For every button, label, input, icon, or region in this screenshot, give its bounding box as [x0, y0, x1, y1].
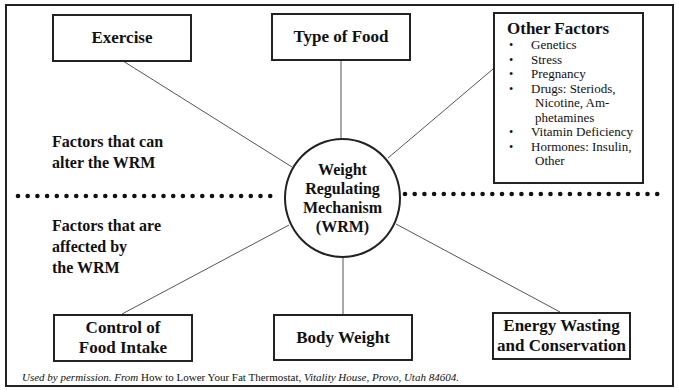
lower-section-label: Factors that are affected by the WRM: [52, 215, 161, 278]
exercise-label: Exercise: [91, 28, 152, 48]
wrm-hub-circle: Weight Regulating Mechanism (WRM): [284, 138, 401, 258]
other-factors-title: Other Factors: [507, 20, 642, 38]
bullet-icon: •: [509, 67, 513, 82]
connector-energy-wasting: [396, 224, 560, 312]
other-factors-list: •Genetics •Stress •Pregnancy •Drugs: Ste…: [507, 38, 642, 169]
bullet-icon: •: [509, 125, 513, 140]
other-factors-box: Other Factors •Genetics •Stress •Pregnan…: [493, 12, 644, 184]
other-factor-item: •Genetics: [507, 38, 642, 53]
other-factor-item: •Pregnancy: [507, 67, 642, 82]
upper-section-label: Factors that can alter the WRM: [52, 131, 163, 173]
other-factor-item: •Drugs: Steriods, Nicotine, Am- phetamin…: [507, 82, 642, 126]
bullet-icon: •: [509, 53, 513, 68]
energy-wasting-box: Energy Wasting and Conservation: [492, 312, 631, 360]
bullet-icon: •: [509, 82, 513, 97]
dotted-divider-right: [403, 192, 660, 197]
permission-footer: Used by permission. From How to Lower Yo…: [22, 371, 459, 383]
type-of-food-box: Type of Food: [271, 13, 411, 61]
bullet-icon: •: [509, 38, 513, 53]
body-weight-box: Body Weight: [273, 314, 413, 361]
exercise-box: Exercise: [52, 14, 192, 62]
other-factor-item: •Stress: [507, 53, 642, 68]
type-of-food-label: Type of Food: [293, 27, 388, 47]
other-factor-item: •Vitamin Deficiency: [507, 125, 642, 140]
connector-other-factors: [388, 69, 493, 158]
other-factor-item: •Hormones: Insulin, Other: [507, 140, 642, 169]
dotted-divider-left: [16, 194, 273, 199]
control-of-food-intake-box: Control of Food Intake: [53, 314, 193, 362]
bullet-icon: •: [509, 140, 513, 155]
